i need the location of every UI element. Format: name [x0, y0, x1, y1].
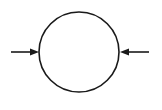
left-arrow-icon [11, 49, 39, 56]
compression-diagram [0, 0, 162, 110]
right-arrow-icon [120, 49, 149, 56]
circle-shape [39, 12, 119, 92]
